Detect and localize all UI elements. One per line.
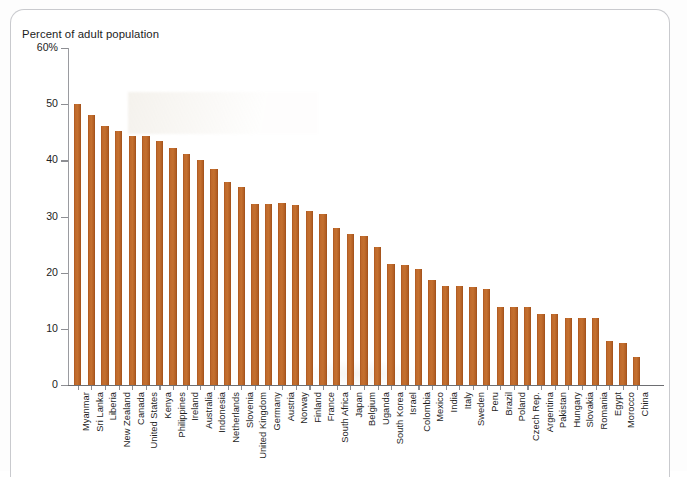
bar (387, 264, 394, 385)
bar (619, 343, 626, 385)
y-axis-label: 20 (14, 266, 58, 278)
y-axis-label: 50 (14, 97, 58, 109)
x-axis-category-label: Israel (408, 392, 418, 415)
x-axis-category-label: United Kingdom (258, 392, 268, 459)
x-axis-tick (446, 386, 447, 390)
bar (333, 228, 340, 385)
x-axis-category-label: Hungary (572, 392, 582, 428)
x-axis-category-label: Slovakia (585, 392, 595, 428)
x-axis-category-label: South Africa (340, 392, 350, 443)
x-axis-category-label: Ireland (190, 392, 200, 421)
bar (169, 148, 176, 385)
x-axis-category-label: United States (149, 392, 159, 448)
x-axis-tick (459, 386, 460, 390)
x-axis-tick (500, 386, 501, 390)
x-axis-tick (146, 386, 147, 390)
x-axis-tick (309, 386, 310, 390)
y-axis-line (68, 48, 69, 386)
y-axis-label: 60% (14, 41, 58, 53)
bar (469, 287, 476, 385)
x-axis-category-label: Japan (354, 392, 364, 418)
x-axis-category-label: Australia (204, 392, 214, 429)
x-axis-tick (173, 386, 174, 390)
bar (156, 141, 163, 385)
bar (292, 205, 299, 385)
x-axis-category-label: Philippines (177, 392, 187, 438)
x-axis-tick (405, 386, 406, 390)
bar (101, 126, 108, 385)
bar (347, 234, 354, 385)
x-axis-category-label: Finland (313, 392, 323, 423)
bar (74, 104, 81, 385)
bar (551, 314, 558, 385)
x-axis-category-label: Slovenia (245, 392, 255, 428)
x-axis-category-label: Romania (599, 392, 609, 430)
x-axis-tick (228, 386, 229, 390)
x-axis-category-label: Pakistan (558, 392, 568, 428)
x-axis-category-label: Austria (286, 392, 296, 421)
x-axis-tick (527, 386, 528, 390)
bar (319, 214, 326, 385)
bar (456, 286, 463, 385)
x-axis-tick (296, 386, 297, 390)
bar (524, 307, 531, 385)
x-axis-tick (105, 386, 106, 390)
bar (578, 318, 585, 385)
bar (415, 269, 422, 385)
bar (374, 247, 381, 385)
bar (537, 314, 544, 385)
x-axis-category-label: Peru (490, 392, 500, 412)
bar (183, 154, 190, 385)
bar (197, 160, 204, 385)
y-axis-tick (61, 160, 68, 161)
x-axis-tick (350, 386, 351, 390)
x-axis-category-label: France (326, 392, 336, 421)
x-axis-tick (432, 386, 433, 390)
x-axis-category-label: South Korea (395, 392, 405, 444)
x-axis-category-label: Egypt (613, 392, 623, 416)
x-axis-category-label: New Zealand (122, 392, 132, 447)
x-axis-tick (637, 386, 638, 390)
x-axis-tick (282, 386, 283, 390)
bar (251, 204, 258, 385)
bar (360, 236, 367, 385)
y-axis-tick (61, 104, 68, 105)
bar (129, 136, 136, 385)
y-axis-tick (61, 273, 68, 274)
x-axis-category-label: Germany (272, 392, 282, 431)
x-axis-tick (623, 386, 624, 390)
bar (510, 307, 517, 385)
y-axis-label: 30 (14, 210, 58, 222)
x-axis-category-label: Myanmar (81, 392, 91, 431)
y-axis-label: 10 (14, 322, 58, 334)
x-axis-tick (337, 386, 338, 390)
x-axis-tick (473, 386, 474, 390)
y-axis-tick (61, 329, 68, 330)
x-axis-category-label: Norway (299, 392, 309, 424)
x-axis-category-label: Colombia (422, 392, 432, 432)
x-axis-tick (269, 386, 270, 390)
x-axis-category-label: Sweden (476, 392, 486, 426)
x-axis-tick (418, 386, 419, 390)
bar (633, 357, 640, 385)
y-axis-tick (61, 217, 68, 218)
x-axis-tick (391, 386, 392, 390)
x-axis-tick (78, 386, 79, 390)
y-axis-tick (61, 48, 68, 49)
x-axis-tick (119, 386, 120, 390)
bar (88, 115, 95, 385)
bar (592, 318, 599, 385)
x-axis-category-label: Mexico (435, 392, 445, 422)
x-axis-tick (255, 386, 256, 390)
bar (115, 131, 122, 385)
x-axis-category-label: Liberia (108, 392, 118, 420)
x-axis-tick (159, 386, 160, 390)
x-axis-category-label: Czech Rep. (531, 392, 541, 441)
x-axis-category-label: Belgium (367, 392, 377, 426)
chart-title: Percent of adult population (22, 28, 159, 40)
x-axis-tick (187, 386, 188, 390)
x-axis-tick (609, 386, 610, 390)
y-axis-label: 0 (14, 378, 58, 390)
x-axis-category-label: Italy (463, 392, 473, 409)
bar (401, 265, 408, 385)
